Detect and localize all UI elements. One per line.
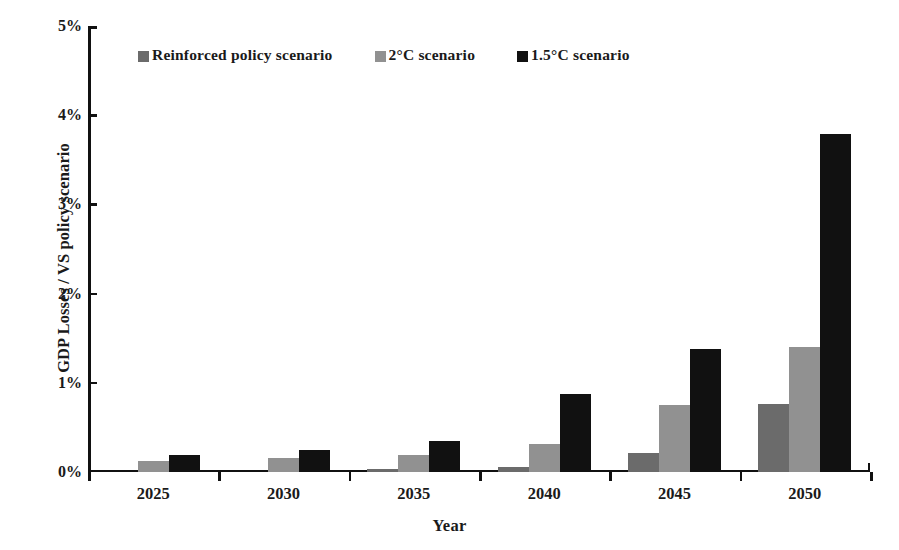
x-tick-label: 2045 — [615, 484, 735, 504]
bar-2030-series-2 — [299, 450, 330, 472]
legend-label: 1.5°C scenario — [531, 46, 630, 64]
bar-2045-series-0 — [628, 453, 659, 472]
legend-swatch-icon — [375, 51, 386, 62]
x-tick-label: 2030 — [224, 484, 344, 504]
x-tick-label: 2040 — [484, 484, 604, 504]
legend-label: Reinforced policy scenario — [152, 46, 333, 64]
bar-2025-series-2 — [169, 455, 200, 472]
y-tick-mark — [88, 382, 97, 385]
chart-legend: Reinforced policy scenario2°C scenario1.… — [138, 46, 630, 64]
y-tick-mark — [88, 114, 97, 117]
legend-item-2[interactable]: 1.5°C scenario — [517, 46, 630, 64]
y-tick-label: 2% — [36, 286, 82, 302]
legend-item-1[interactable]: 2°C scenario — [375, 46, 476, 64]
x-tick-mark — [479, 472, 482, 481]
bar-2050-series-0 — [758, 404, 789, 472]
bar-2040-series-0 — [498, 467, 529, 472]
y-tick-label: 5% — [36, 18, 82, 34]
y-tick-mark — [88, 293, 97, 296]
legend-item-0[interactable]: Reinforced policy scenario — [138, 46, 333, 64]
bar-2035-series-0 — [367, 469, 398, 472]
bar-2025-series-1 — [138, 461, 169, 472]
y-axis-tick-labels: 0%1%2%3%4%5% — [26, 0, 82, 550]
legend-label: 2°C scenario — [389, 46, 476, 64]
bar-2045-series-1 — [659, 405, 690, 472]
bar-2035-series-2 — [429, 441, 460, 472]
x-tick-mark — [740, 472, 743, 481]
y-tick-label: 3% — [36, 196, 82, 212]
y-tick-label: 0% — [36, 464, 82, 480]
x-tick-mark — [609, 472, 612, 481]
bar-2050-series-1 — [789, 347, 820, 472]
plot-area — [88, 26, 870, 472]
y-tick-label: 4% — [36, 107, 82, 123]
bar-2040-series-1 — [529, 444, 560, 472]
x-tick-mark — [349, 472, 352, 481]
x-tick-label: 2050 — [745, 484, 865, 504]
bar-2035-series-1 — [398, 455, 429, 472]
legend-swatch-icon — [138, 51, 149, 62]
x-tick-label: 2035 — [354, 484, 474, 504]
y-tick-label: 1% — [36, 375, 82, 391]
bar-2030-series-1 — [268, 458, 299, 472]
y-tick-mark — [88, 203, 97, 206]
legend-swatch-icon — [517, 51, 528, 62]
bar-chart: GDP Losses / VS policy scenario 0%1%2%3%… — [0, 0, 899, 550]
x-tick-mark — [218, 472, 221, 481]
bars-layer — [88, 26, 870, 472]
bar-2040-series-2 — [560, 394, 591, 472]
x-tick-label: 2025 — [93, 484, 213, 504]
bar-2050-series-2 — [820, 134, 851, 472]
bar-2045-series-2 — [690, 349, 721, 472]
x-axis-title: Year — [0, 516, 899, 536]
x-tick-mark — [870, 472, 873, 481]
x-tick-mark — [88, 472, 91, 481]
